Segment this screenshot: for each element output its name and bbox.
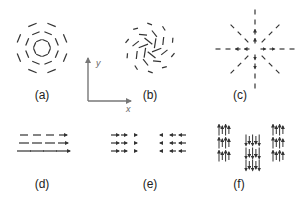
vector-arrow	[36, 40, 42, 42]
vector-arrow	[126, 39, 129, 43]
vector-arrow	[262, 56, 266, 60]
vector-arrow	[42, 40, 48, 42]
vector-arrow	[133, 28, 138, 29]
panel-a-vortex	[17, 23, 67, 73]
vector-arrow	[44, 61, 51, 64]
vector-arrow	[276, 25, 280, 29]
vector-arrow	[42, 54, 48, 56]
vector-arrow	[139, 44, 148, 48]
panel-e-opposing	[111, 135, 186, 151]
vector-arrow	[135, 66, 138, 70]
vector-arrow	[245, 39, 249, 43]
panel-c-radial	[216, 10, 295, 89]
vector-arrow	[231, 70, 235, 74]
vector-arrow	[55, 50, 58, 57]
vector-arrow	[152, 48, 161, 52]
vector-arrow	[47, 69, 55, 72]
vector-arrow	[63, 34, 66, 42]
vector-arrow	[136, 51, 137, 59]
vector-arrow	[48, 42, 50, 48]
vector-arrow	[152, 31, 157, 37]
vector-arrow	[162, 67, 167, 68]
vector-arrow	[63, 53, 66, 61]
vector-arrow	[262, 39, 266, 43]
vector-arrow	[34, 42, 36, 48]
vector-arrow	[48, 48, 50, 54]
vector-arrow	[28, 69, 36, 72]
panel-label-a: (a)	[35, 88, 50, 102]
vector-arrow	[238, 63, 242, 67]
panel-d-uniform	[17, 135, 70, 151]
vector-arrow	[133, 41, 139, 46]
vector-arrow	[28, 23, 36, 26]
vector-arrow	[171, 53, 174, 57]
vector-arrow	[32, 32, 39, 35]
vector-arrow	[245, 56, 249, 60]
vector-arrow	[47, 23, 55, 26]
x-axis-label: x	[126, 104, 131, 114]
vector-arrow	[269, 32, 273, 36]
vector-arrow	[32, 61, 39, 64]
vector-arrow	[144, 48, 146, 58]
vector-arrow	[145, 38, 153, 44]
y-axis-label: y	[96, 58, 101, 68]
coordinate-axes	[88, 58, 131, 101]
panel-label-d: (d)	[35, 177, 50, 191]
vector-arrow	[36, 54, 42, 56]
vector-arrow	[139, 34, 147, 35]
panel-f-updown	[219, 125, 283, 171]
vector-arrow	[148, 52, 156, 58]
vector-arrow	[143, 59, 148, 65]
vector-arrow	[147, 23, 152, 25]
vector-arrow	[17, 34, 20, 42]
vector-arrow	[153, 61, 161, 62]
vector-arrow	[26, 50, 29, 57]
vector-arrow	[269, 63, 273, 67]
vector-arrow	[154, 38, 156, 48]
vector-arrow	[161, 50, 167, 55]
vector-arrow	[231, 25, 235, 29]
vector-arrow	[55, 38, 58, 45]
vector-field-diagram	[0, 0, 305, 205]
panel-label-c: (c)	[233, 88, 247, 102]
vector-arrow	[163, 26, 166, 30]
vector-arrow	[238, 32, 242, 36]
panel-label-f: (f)	[233, 177, 244, 191]
vector-arrow	[276, 70, 280, 74]
vector-arrow	[34, 48, 36, 54]
vector-arrow	[44, 32, 51, 35]
panel-b-swirl	[126, 23, 175, 73]
vector-arrow	[148, 71, 153, 73]
vector-arrow	[163, 37, 164, 45]
panel-label-b: (b)	[143, 88, 158, 102]
vector-arrow	[17, 53, 20, 61]
panel-label-e: (e)	[143, 177, 158, 191]
vector-arrow	[26, 38, 29, 45]
